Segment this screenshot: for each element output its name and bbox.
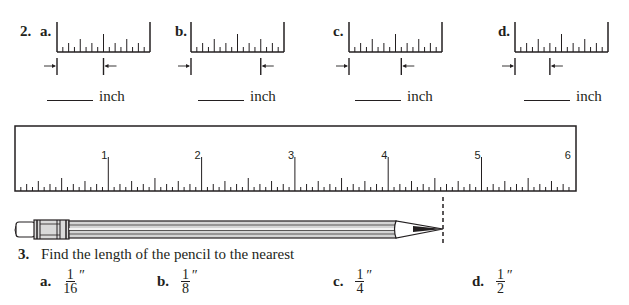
choice-b[interactable]: b. 18 ″ bbox=[157, 268, 197, 295]
question-3-number: 3. bbox=[18, 246, 29, 262]
question-3-prompt: Find the length of the pencil to the nea… bbox=[41, 246, 294, 262]
fraction-a: 116 bbox=[63, 268, 77, 295]
choice-a[interactable]: a. 116 ″ bbox=[40, 268, 84, 295]
fraction-d: 12 bbox=[496, 268, 505, 295]
question-3: 3. Find the length of the pencil to the … bbox=[18, 246, 294, 263]
fraction-c: 14 bbox=[355, 268, 364, 295]
choice-d[interactable]: d. 12 ″ bbox=[472, 268, 512, 295]
fraction-b: 18 bbox=[181, 268, 190, 295]
choice-c[interactable]: c. 14 ″ bbox=[333, 268, 371, 295]
